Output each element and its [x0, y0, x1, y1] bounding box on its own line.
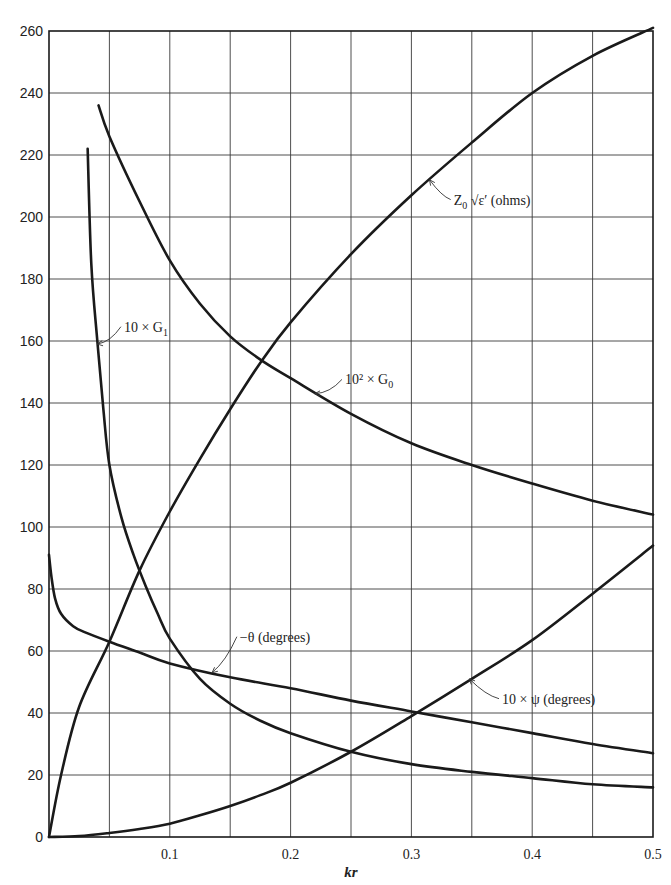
- leader-arrow: [469, 679, 499, 699]
- y-axis-tick-labels: 020406080100120140160180200220240260: [20, 23, 44, 845]
- y-tick-label: 160: [20, 333, 44, 349]
- chart: 020406080100120140160180200220240260 0.1…: [0, 0, 671, 885]
- x-tick-label: 0.2: [282, 847, 300, 862]
- annotation-z0-curve: Z0 √ε′ (ohms): [430, 180, 531, 211]
- leader-arrow: [212, 637, 237, 673]
- y-tick-label: 40: [27, 705, 43, 721]
- y-tick-label: 100: [20, 519, 44, 535]
- x-axis-title: kr: [344, 864, 358, 880]
- x-tick-label: 0.4: [523, 847, 541, 862]
- y-tick-label: 80: [27, 581, 43, 597]
- y-tick-label: 260: [20, 23, 44, 39]
- y-tick-label: 180: [20, 271, 44, 287]
- leader-arrow: [430, 180, 451, 200]
- x-axis-tick-labels: 0.10.20.30.40.5: [161, 847, 662, 862]
- annotation-g0-curve: 10² × G0: [315, 372, 393, 396]
- y-tick-label: 60: [27, 643, 43, 659]
- x-tick-label: 0.5: [644, 847, 662, 862]
- y-tick-label: 220: [20, 147, 44, 163]
- y-tick-label: 120: [20, 457, 44, 473]
- annotation-label: −θ (degrees): [240, 630, 311, 646]
- annotation-label: 10 × ψ (degrees): [502, 692, 596, 708]
- x-tick-label: 0.3: [403, 847, 421, 862]
- x-tick-label: 0.1: [161, 847, 179, 862]
- annotation-label: 10 × G1: [124, 320, 168, 338]
- y-tick-label: 240: [20, 85, 44, 101]
- y-tick-label: 140: [20, 395, 44, 411]
- y-tick-label: 0: [35, 829, 43, 845]
- y-tick-label: 20: [27, 767, 43, 783]
- y-tick-label: 200: [20, 209, 44, 225]
- grid-lines: [49, 31, 653, 837]
- annotation-label: Z0 √ε′ (ohms): [454, 193, 531, 211]
- g0-curve: [99, 105, 653, 514]
- annotation-label: 10² × G0: [345, 372, 393, 390]
- annotation-g1-curve: 10 × G1: [97, 320, 168, 346]
